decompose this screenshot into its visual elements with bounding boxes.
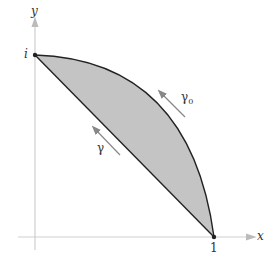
- x-axis-label: x: [257, 230, 264, 242]
- gamma0-subscript: 0: [188, 97, 193, 106]
- gamma0-label: γ0: [181, 91, 193, 106]
- point-1-label: 1: [210, 242, 218, 254]
- point-i: [33, 53, 37, 57]
- point-i-label: i: [24, 48, 28, 60]
- y-axis-label: y: [31, 5, 38, 17]
- diagram-canvas: [0, 0, 279, 263]
- point-1: [212, 235, 216, 239]
- gamma-label: γ: [97, 142, 104, 154]
